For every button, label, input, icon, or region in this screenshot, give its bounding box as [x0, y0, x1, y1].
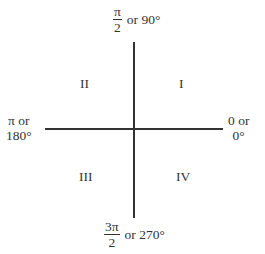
quadrant-II-label: II — [80, 76, 89, 92]
quadrant-III-label: III — [79, 169, 93, 185]
fraction-3pi-over-2: 3π 2 — [104, 219, 120, 250]
quadrant-I-label: I — [179, 76, 184, 92]
denominator: 2 — [108, 235, 115, 250]
label-180-line2: 180° — [6, 128, 32, 143]
label-90-degrees: π 2 or 90° — [113, 4, 160, 35]
label-90-suffix: or 90° — [127, 12, 161, 27]
quadrant-IV-label: IV — [176, 169, 190, 185]
label-0-line1: 0 or — [228, 113, 249, 128]
label-0-line2: 0° — [228, 128, 249, 143]
fraction-pi-over-2: π 2 — [113, 4, 122, 35]
label-270-degrees: 3π 2 or 270° — [104, 219, 165, 250]
label-0-degrees: 0 or 0° — [228, 113, 249, 143]
horizontal-axis — [45, 128, 223, 130]
label-180-degrees: π or 180° — [6, 113, 32, 143]
numerator: 3π — [104, 219, 120, 235]
denominator: 2 — [114, 20, 121, 35]
vertical-axis — [133, 42, 135, 218]
label-180-line1: π or — [6, 113, 32, 128]
label-270-suffix: or 270° — [125, 227, 165, 242]
numerator: π — [113, 4, 122, 20]
